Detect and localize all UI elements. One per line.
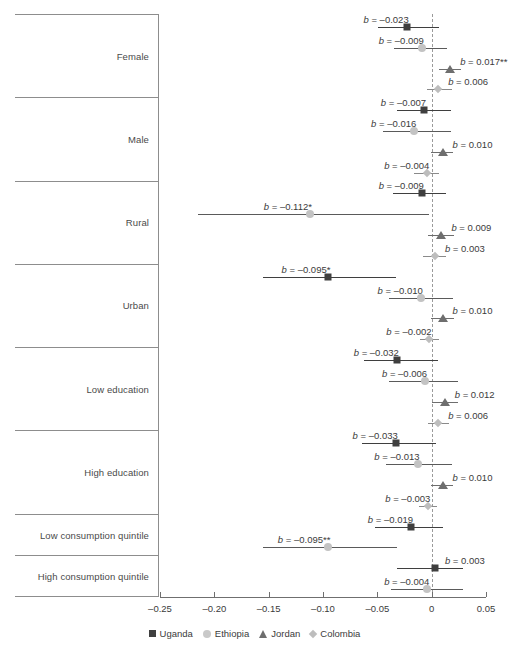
estimate-value-label: b = –0.112* <box>264 201 312 212</box>
triangle-marker-icon <box>259 630 267 638</box>
estimate-marker-jordan <box>438 148 448 156</box>
vertical-axis-line <box>158 14 159 597</box>
legend-label: Ethiopia <box>215 628 249 639</box>
estimate-value-label: b = –0.002 <box>386 326 431 337</box>
estimate-value-label: b = –0.032 <box>354 347 399 358</box>
estimate-value-label: b = 0.010 <box>453 472 493 483</box>
estimate-marker-jordan <box>445 65 455 73</box>
estimate-value-label: b = –0.010 <box>378 285 423 296</box>
estimate-marker-jordan <box>438 481 448 489</box>
legend-item-jordan: Jordan <box>259 628 300 639</box>
legend-label: Jordan <box>271 628 300 639</box>
x-axis-tick <box>214 592 215 597</box>
estimate-value-label: b = –0.033 <box>353 430 398 441</box>
x-axis-tick-label: 0 <box>429 603 434 614</box>
estimate-value-label: b = –0.019 <box>368 514 413 525</box>
estimate-value-label: b = –0.009 <box>379 35 424 46</box>
x-axis-tick-label: –0.15 <box>257 603 281 614</box>
estimate-value-label: b = –0.023 <box>363 14 408 25</box>
x-axis-tick-label: –0.05 <box>365 603 389 614</box>
legend-item-uganda: Uganda <box>149 628 193 639</box>
estimate-value-label: b = –0.004 <box>384 576 429 587</box>
estimate-value-label: b = 0.010 <box>453 139 493 150</box>
estimate-value-label: b = 0.010 <box>453 305 493 316</box>
estimate-value-label: b = 0.003 <box>445 243 485 254</box>
estimate-value-label: b = –0.016 <box>371 118 416 129</box>
zero-reference-line <box>432 14 433 597</box>
estimate-marker-colombia <box>434 85 442 93</box>
x-axis-tick <box>269 592 270 597</box>
estimate-value-label: b = –0.095* <box>282 264 331 275</box>
x-axis-tick-label: –0.10 <box>311 603 335 614</box>
estimate-marker-jordan <box>440 398 450 406</box>
estimate-marker-jordan <box>438 314 448 322</box>
estimate-value-label: b = –0.003 <box>385 493 430 504</box>
estimate-value-label: b = –0.006 <box>382 368 427 379</box>
estimate-value-label: b = –0.095** <box>278 534 331 545</box>
legend-item-ethiopia: Ethiopia <box>203 628 249 639</box>
legend-label: Colombia <box>320 628 360 639</box>
x-axis-tick <box>377 592 378 597</box>
x-axis-tick <box>323 592 324 597</box>
estimate-marker-colombia <box>434 418 442 426</box>
estimate-value-label: b = –0.004 <box>384 160 429 171</box>
estimate-marker-jordan <box>436 231 446 239</box>
x-axis-tick-label: 0.05 <box>477 603 496 614</box>
diamond-marker-icon <box>309 629 317 637</box>
legend: UgandaEthiopiaJordanColombia <box>0 628 509 639</box>
x-axis-tick <box>160 592 161 597</box>
estimate-value-label: b = –0.009 <box>379 180 424 191</box>
legend-label: Uganda <box>160 628 193 639</box>
x-axis-tick <box>486 592 487 597</box>
x-axis-tick-label: –0.20 <box>202 603 226 614</box>
estimate-value-label: b = 0.003 <box>445 555 485 566</box>
estimate-value-label: b = 0.012 <box>455 389 495 400</box>
forest-plot-figure: FemaleMaleRuralUrbanLow educationHigh ed… <box>0 0 509 656</box>
estimate-value-label: b = 0.006 <box>448 410 488 421</box>
estimate-value-label: b = –0.007 <box>381 97 426 108</box>
square-marker-icon <box>149 630 156 637</box>
x-axis-line <box>160 597 486 598</box>
estimate-value-label: b = 0.017** <box>460 56 507 67</box>
x-axis-tick <box>432 592 433 597</box>
circle-marker-icon <box>203 630 211 638</box>
estimate-value-label: b = 0.009 <box>451 222 491 233</box>
estimate-value-label: b = 0.006 <box>448 76 488 87</box>
plot-area: b = –0.023b = –0.009b = 0.017**b = 0.006… <box>0 0 509 656</box>
estimate-marker-uganda <box>431 565 438 572</box>
x-axis-tick-label: –0.25 <box>148 603 172 614</box>
confidence-interval-bar <box>364 360 438 361</box>
confidence-interval-bar <box>397 568 463 569</box>
estimate-value-label: b = –0.013 <box>374 451 419 462</box>
legend-item-colombia: Colombia <box>310 628 360 639</box>
